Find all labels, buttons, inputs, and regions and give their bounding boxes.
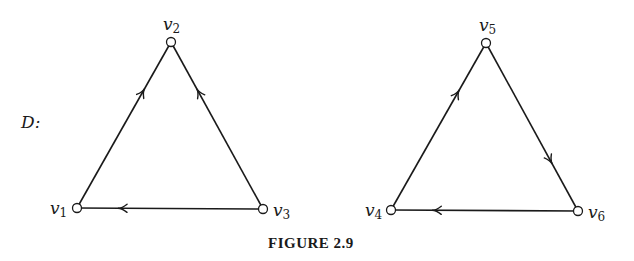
edge-v6-v4	[391, 210, 578, 211]
figure-caption: FIGURE 2.9	[268, 235, 354, 251]
vertex-label-v1: v1	[50, 198, 67, 220]
edge-v3-v2	[171, 42, 263, 209]
vertex-v2	[167, 38, 176, 47]
vertex-v4	[387, 206, 396, 215]
edge-v1-v2	[77, 42, 171, 208]
vertex-v3	[259, 205, 268, 214]
vertex-v5	[482, 39, 491, 48]
vertex-label-v5: v5	[479, 15, 496, 37]
graph-label: D:	[20, 112, 40, 132]
nodes-group	[73, 38, 583, 216]
node-labels-group: v1v2v3v4v5v6	[50, 14, 605, 224]
vertex-v1	[73, 204, 82, 213]
vertex-label-v6: v6	[588, 202, 605, 224]
edge-v4-v5	[391, 43, 486, 210]
vertex-label-v2: v2	[163, 14, 180, 36]
edge-v5-v6	[486, 43, 578, 211]
edge-v3-v1	[77, 208, 263, 209]
vertex-label-v3: v3	[273, 200, 290, 222]
edges-group	[77, 42, 578, 211]
vertex-label-v4: v4	[365, 200, 383, 222]
arrowheads-group	[118, 88, 552, 214]
vertex-v6	[574, 207, 583, 216]
directed-graph-figure: v1v2v3v4v5v6 D: FIGURE 2.9	[0, 0, 634, 261]
